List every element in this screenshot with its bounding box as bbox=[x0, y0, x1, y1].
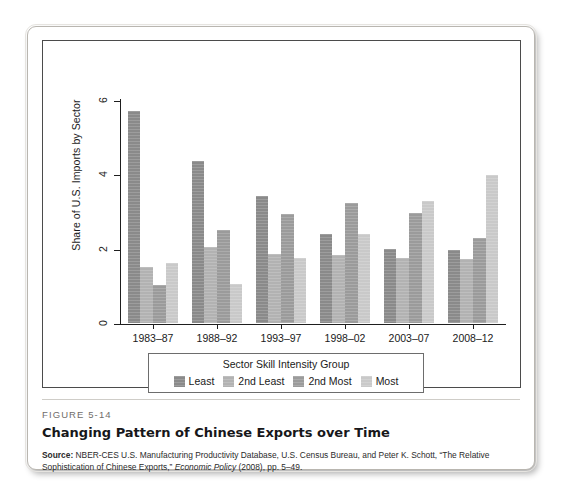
x-tick-label: 2008–12 bbox=[438, 332, 508, 344]
bar bbox=[473, 238, 486, 323]
bar bbox=[384, 249, 397, 323]
bar-group bbox=[448, 85, 498, 323]
caption-block: FIGURE 5-14 Changing Pattern of Chinese … bbox=[42, 399, 520, 474]
x-tick-label: 2003–07 bbox=[374, 332, 444, 344]
x-tick bbox=[473, 324, 474, 329]
y-tick-2 bbox=[114, 250, 120, 251]
legend-item: Least bbox=[174, 375, 215, 387]
x-tick bbox=[281, 324, 282, 329]
bar bbox=[486, 175, 499, 323]
x-tick bbox=[153, 324, 154, 329]
figure-title: Changing Pattern of Chinese Exports over… bbox=[42, 425, 520, 440]
x-tick bbox=[217, 324, 218, 329]
y-tick-label-4: 4 bbox=[97, 166, 109, 182]
legend-items: Least2nd Least2nd MostMost bbox=[149, 375, 423, 387]
bar bbox=[332, 255, 345, 323]
bar bbox=[422, 201, 435, 323]
bar bbox=[294, 258, 307, 323]
bar bbox=[358, 234, 371, 323]
legend-label: 2nd Most bbox=[308, 375, 351, 387]
bar bbox=[460, 259, 473, 323]
source-journal-name: Economic Policy bbox=[175, 462, 236, 472]
x-tick-label: 1983–87 bbox=[118, 332, 188, 344]
y-tick-0 bbox=[114, 324, 120, 325]
x-tick-label: 1988–92 bbox=[182, 332, 252, 344]
x-axis-line bbox=[120, 324, 506, 325]
x-tick bbox=[345, 324, 346, 329]
figure-number: FIGURE 5-14 bbox=[42, 409, 520, 420]
bar bbox=[256, 196, 269, 323]
legend-item: 2nd Most bbox=[293, 375, 351, 387]
chart-legend: Sector Skill Intensity Group Least2nd Le… bbox=[148, 353, 424, 393]
bar bbox=[217, 230, 230, 323]
bar bbox=[192, 161, 205, 323]
bar bbox=[140, 267, 153, 323]
caption-divider bbox=[42, 399, 520, 400]
plot-frame: Share of U.S. Imports by Sector 0246 198… bbox=[42, 40, 521, 388]
legend-label: Least bbox=[189, 375, 215, 387]
y-axis-title: Share of U.S. Imports by Sector bbox=[70, 80, 82, 270]
legend-swatch-icon bbox=[361, 376, 372, 387]
bar bbox=[320, 234, 333, 323]
bar-group bbox=[256, 85, 306, 323]
legend-item: Most bbox=[361, 375, 399, 387]
source-text-part-2: (2008), pp. 5–49. bbox=[236, 462, 302, 472]
bar bbox=[268, 254, 281, 323]
bar-group bbox=[320, 85, 370, 323]
figure-source: Source: NBER-CES U.S. Manufacturing Prod… bbox=[42, 450, 520, 474]
bar bbox=[128, 111, 141, 323]
bar bbox=[396, 258, 409, 323]
y-tick-label-0: 0 bbox=[97, 315, 109, 331]
y-tick-label-2: 2 bbox=[97, 241, 109, 257]
x-tick-label: 1998–02 bbox=[310, 332, 380, 344]
legend-label: Most bbox=[376, 375, 399, 387]
bar bbox=[230, 284, 243, 323]
legend-swatch-icon bbox=[223, 376, 234, 387]
bar bbox=[153, 285, 166, 323]
bar bbox=[345, 203, 358, 323]
bar bbox=[204, 247, 217, 323]
bar-group bbox=[384, 85, 434, 323]
x-tick bbox=[409, 324, 410, 329]
bar bbox=[409, 213, 422, 323]
plot-region bbox=[121, 85, 505, 323]
source-label: Source: bbox=[42, 450, 73, 460]
x-tick-label: 1993–97 bbox=[246, 332, 316, 344]
legend-swatch-icon bbox=[293, 376, 304, 387]
bar bbox=[166, 263, 179, 323]
bar-group bbox=[192, 85, 242, 323]
legend-item: 2nd Least bbox=[223, 375, 284, 387]
bar-chart: Share of U.S. Imports by Sector 0246 198… bbox=[43, 41, 520, 387]
y-tick-6 bbox=[114, 101, 120, 102]
legend-label: 2nd Least bbox=[238, 375, 284, 387]
bar bbox=[448, 250, 461, 323]
y-tick-4 bbox=[114, 175, 120, 176]
bar bbox=[281, 214, 294, 323]
figure-card: Share of U.S. Imports by Sector 0246 198… bbox=[27, 26, 535, 470]
bar-group bbox=[128, 85, 178, 323]
legend-title: Sector Skill Intensity Group bbox=[149, 358, 423, 370]
y-tick-label-6: 6 bbox=[97, 92, 109, 108]
legend-swatch-icon bbox=[174, 376, 185, 387]
